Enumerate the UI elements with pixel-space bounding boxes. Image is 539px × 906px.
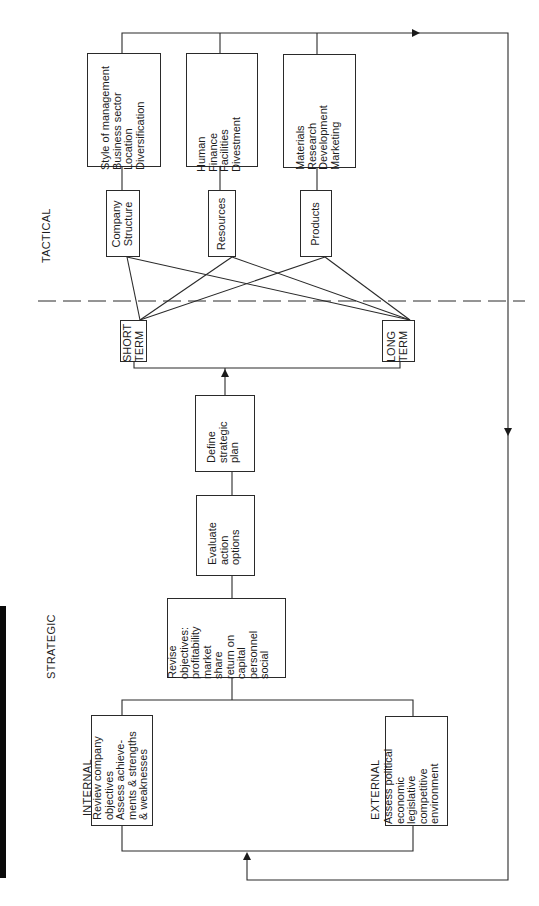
label-external: EXTERNAL xyxy=(369,756,381,820)
long-term-text: LONG TERM xyxy=(386,322,410,362)
company-structure-detail-text: Style of management Business sector Loca… xyxy=(100,58,148,170)
label-strategic: STRATEGIC xyxy=(45,609,57,679)
resources-text: Resources xyxy=(216,194,228,254)
company-structure-text: Company Structure xyxy=(111,196,135,252)
black-edge-bar xyxy=(0,606,6,878)
evaluate-action-options-text: Evaluate action options xyxy=(207,507,243,565)
external-text: Assess political economic legislative co… xyxy=(383,724,441,824)
short-term-text: SHORT TERM xyxy=(122,322,146,362)
arrow-up-icon xyxy=(221,369,229,377)
arrow-right-icon xyxy=(412,29,420,37)
products-text: Products xyxy=(310,194,322,254)
internal-text: Review company objectives Assess achieve… xyxy=(92,718,150,820)
arrow-up-icon xyxy=(243,852,251,860)
products-detail-text: Materials Research Development Marketing xyxy=(295,82,343,170)
label-tactical: TACTICAL xyxy=(40,203,52,263)
revise-objectives-text: Revise objectives: profitability market … xyxy=(167,605,271,679)
arrow-down-icon xyxy=(504,428,512,436)
resources-detail-text: Human Finance Facilities Divestment xyxy=(196,92,244,172)
define-strategic-plan-text: Define strategic plan xyxy=(206,407,242,463)
